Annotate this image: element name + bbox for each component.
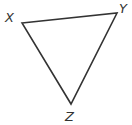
vertex-label-x: X — [4, 10, 15, 25]
vertex-label-z: Z — [64, 109, 75, 124]
triangle-xyz — [22, 13, 117, 104]
vertex-label-y: Y — [119, 1, 128, 16]
triangle-diagram: X Y Z — [0, 0, 132, 125]
